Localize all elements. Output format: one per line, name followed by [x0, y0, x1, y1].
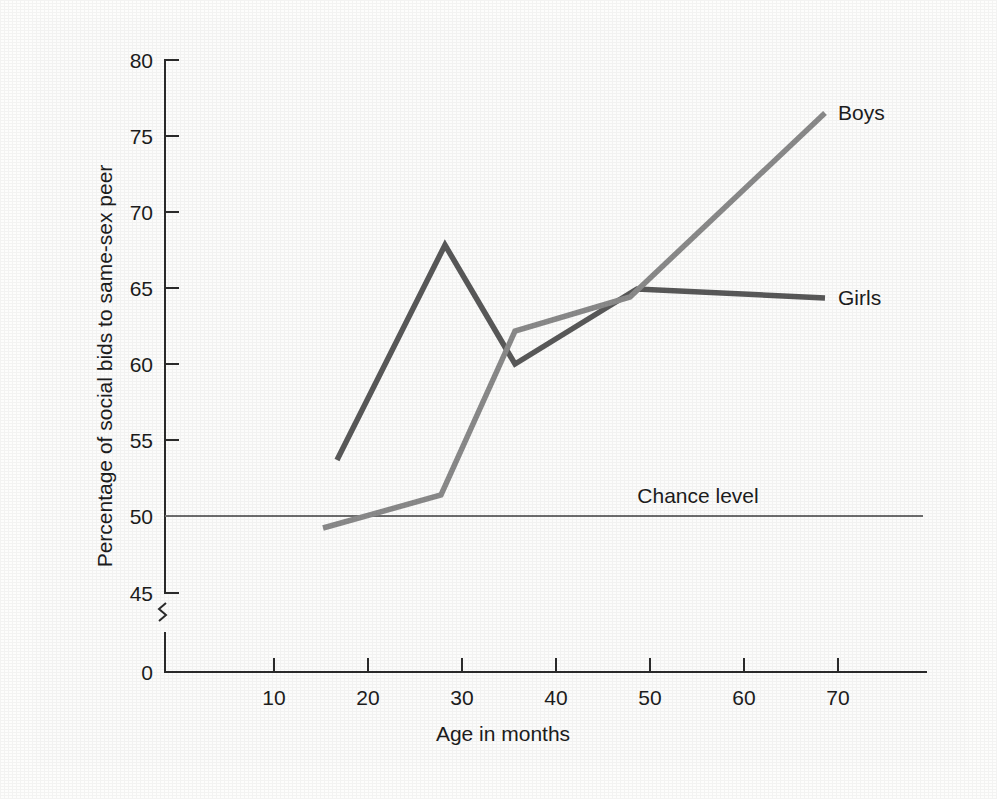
y-tick-label-55: 55 — [130, 429, 153, 452]
y-tick-labels: 80 75 70 65 60 55 50 45 0 — [130, 49, 153, 684]
x-tick-label-10: 10 — [262, 686, 285, 709]
y-tick-label-70: 70 — [130, 201, 153, 224]
series-label-boys: Boys — [838, 101, 885, 124]
y-tick-label-50: 50 — [130, 505, 153, 528]
x-tick-labels: 10 20 30 40 50 60 70 — [262, 686, 849, 709]
x-axis-title: Age in months — [436, 722, 570, 745]
x-tick-label-50: 50 — [638, 686, 661, 709]
y-tick-label-75: 75 — [130, 125, 153, 148]
line-chart: 80 75 70 65 60 55 50 45 0 Percentage of … — [33, 19, 967, 767]
y-tick-label-80: 80 — [130, 49, 153, 72]
x-tick-label-60: 60 — [732, 686, 755, 709]
series-line-girls — [337, 245, 825, 460]
figure-frame: 80 75 70 65 60 55 50 45 0 Percentage of … — [33, 19, 967, 767]
series-group — [323, 113, 825, 528]
series-line-boys — [323, 113, 825, 528]
x-tick-label-30: 30 — [450, 686, 473, 709]
y-tick-label-45: 45 — [130, 582, 153, 605]
y-axis-title: Percentage of social bids to same-sex pe… — [93, 165, 116, 568]
x-tick-label-20: 20 — [356, 686, 379, 709]
y-axis — [159, 60, 166, 672]
series-label-girls: Girls — [838, 286, 881, 309]
y-tick-label-0: 0 — [141, 661, 153, 684]
x-ticks — [274, 658, 838, 672]
chance-level-label: Chance level — [637, 484, 758, 507]
page-canvas: 80 75 70 65 60 55 50 45 0 Percentage of … — [0, 0, 997, 799]
chance-level-group: Chance level — [165, 484, 923, 516]
y-ticks — [165, 60, 179, 593]
y-tick-label-60: 60 — [130, 353, 153, 376]
x-tick-label-70: 70 — [826, 686, 849, 709]
series-labels: Boys Girls — [838, 101, 885, 309]
y-axis-break-icon — [159, 603, 166, 621]
x-tick-label-40: 40 — [544, 686, 567, 709]
y-tick-label-65: 65 — [130, 277, 153, 300]
